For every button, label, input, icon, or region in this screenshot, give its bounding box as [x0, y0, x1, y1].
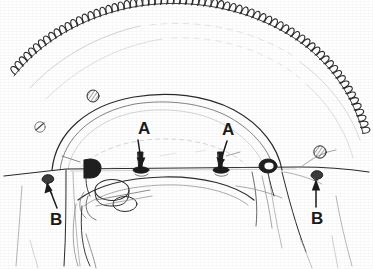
flywheel-ring-gear [9, 0, 370, 140]
hatched-bolt-head-upper-left [87, 90, 99, 102]
hatched-bolt-head-right [314, 146, 326, 158]
bell-housing-dome [52, 94, 282, 170]
lower-housing-outline [16, 170, 352, 268]
retaining-screw-right [311, 171, 323, 180]
mounting-bolt-right [213, 152, 240, 176]
callout-label-b-right: B [311, 210, 323, 227]
callout-label-a-left: A [138, 120, 150, 137]
grommet-ring [259, 159, 277, 196]
scan-artifacts [110, 150, 252, 168]
callout-label-a-right: A [222, 121, 234, 138]
technical-diagram-figure: A A B B [0, 0, 373, 269]
callout-label-b-left: B [50, 211, 62, 228]
small-hole-left [35, 122, 45, 132]
